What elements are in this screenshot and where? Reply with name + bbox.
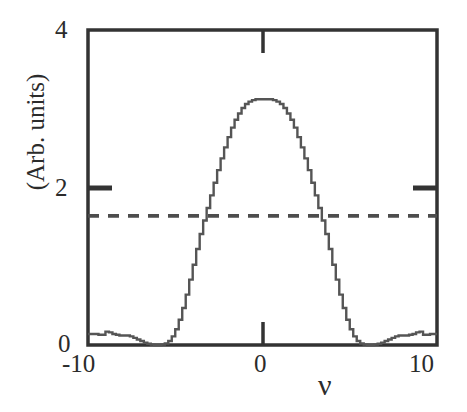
data-curve xyxy=(88,99,437,345)
chart-figure: 4 2 0 -10 0 10 (Arb. units) ν xyxy=(0,0,467,412)
x-tick-label-0: 0 xyxy=(254,350,267,378)
y-tick-label-4: 4 xyxy=(55,16,68,44)
x-tick-label-minus-10: -10 xyxy=(62,350,95,378)
x-axis-label: ν xyxy=(318,368,332,402)
x-tick-label-10: 10 xyxy=(409,350,434,378)
y-tick-label-2: 2 xyxy=(55,174,68,202)
y-axis-label: (Arb. units) xyxy=(22,32,50,232)
plot-frame xyxy=(88,30,437,345)
